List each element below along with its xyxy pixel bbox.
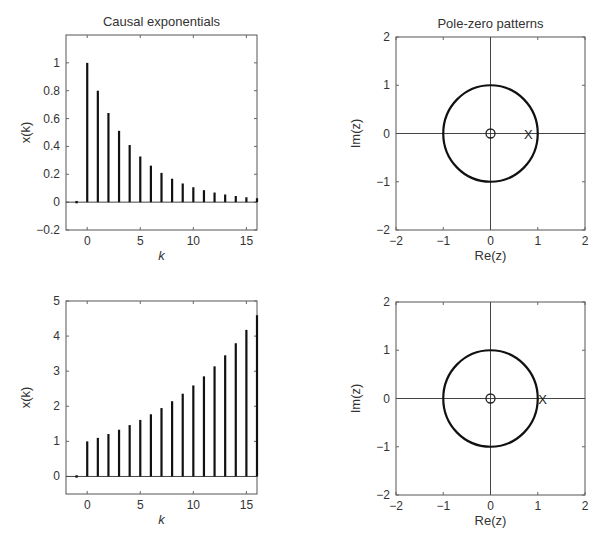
x-tick-label: 5 [137,498,144,512]
y-tick-label: 0 [53,195,60,209]
y-tick-label: 0 [53,469,60,483]
panel-pole-zero-growing: −2−1012−2−1012Re(z)Im(z)X [348,295,589,528]
y-tick-label: 2 [53,399,60,413]
y-tick-label: 0 [383,127,390,141]
y-tick-label: 2 [383,30,390,44]
y-tick-label: 2 [383,295,390,309]
pole-marker: X [524,127,533,142]
y-tick-label: 1 [383,78,390,92]
x-tick-label: 0 [84,498,91,512]
y-tick-label: 0.4 [43,139,60,153]
y-axis-label: Im(z) [348,384,363,414]
y-tick-label: 0.6 [43,112,60,126]
y-axis-label: x(k) [18,122,33,144]
pole-marker: X [538,392,547,407]
y-tick-label: 5 [53,294,60,308]
x-tick-label: −1 [436,234,450,248]
y-tick-label: 3 [53,364,60,378]
y-tick-label: −2 [376,488,390,502]
y-tick-label: 4 [53,329,60,343]
y-axis-label: Im(z) [348,119,363,149]
y-axis-label: x(k) [18,387,33,409]
y-tick-label: −1 [376,440,390,454]
x-tick-label: 1 [534,499,541,513]
y-tick-label: 1 [53,434,60,448]
panel-causal-growing: 051015012345kx(k) [18,294,257,527]
x-tick-label: 2 [582,234,589,248]
x-tick-label: 15 [240,498,254,512]
y-tick-label: 1 [383,343,390,357]
x-tick-label: 0 [487,499,494,513]
x-tick-label: −2 [389,234,403,248]
x-tick-label: 0 [487,234,494,248]
x-tick-label: 10 [187,498,201,512]
x-axis-label: k [158,248,166,263]
y-tick-label: −2 [376,223,390,237]
panel-pole-zero-decaying: −2−1012−2−1012Pole-zero patternsRe(z)Im(… [348,16,589,263]
x-axis-label: Re(z) [475,513,507,528]
x-tick-label: 0 [84,234,91,248]
y-tick-label: −0.2 [36,223,60,237]
panel-causal-decaying: 051015−0.200.20.40.60.81Causal exponenti… [18,14,257,263]
stem-marker [75,475,77,477]
y-tick-label: 0.8 [43,84,60,98]
y-tick-label: 0.2 [43,167,60,181]
y-tick-label: 0 [383,392,390,406]
x-tick-label: 1 [534,234,541,248]
y-tick-label: −1 [376,175,390,189]
x-tick-label: 15 [240,234,254,248]
y-tick-label: 1 [53,56,60,70]
x-tick-label: −1 [436,499,450,513]
x-axis-label: k [158,512,166,527]
x-tick-label: −2 [389,499,403,513]
x-tick-label: 5 [137,234,144,248]
stem-marker [75,201,77,203]
figure: 051015−0.200.20.40.60.81Causal exponenti… [0,0,609,538]
chart-title: Pole-zero patterns [437,16,544,31]
x-tick-label: 10 [187,234,201,248]
chart-title: Causal exponentials [103,14,221,29]
x-tick-label: 2 [582,499,589,513]
x-axis-label: Re(z) [475,248,507,263]
